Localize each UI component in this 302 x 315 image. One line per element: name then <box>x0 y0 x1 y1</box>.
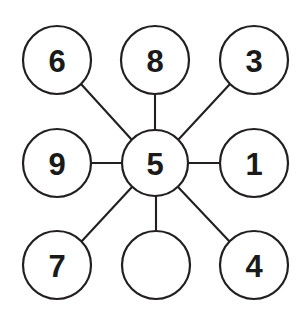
edge-center-top-right <box>178 84 230 140</box>
node-middle-right[interactable]: 1 <box>220 129 288 197</box>
node-top-left[interactable]: 6 <box>23 26 91 94</box>
puzzle-figure: 68395174 <box>0 0 302 315</box>
node-top-center-label: 8 <box>146 44 163 79</box>
node-center-label: 5 <box>146 147 163 182</box>
node-bottom-right[interactable]: 4 <box>220 231 288 299</box>
node-middle-left-label: 9 <box>48 147 65 182</box>
puzzle-diagram-canvas: 68395174 <box>0 0 302 315</box>
node-bottom-left-label: 7 <box>48 249 65 284</box>
node-bottom-left[interactable]: 7 <box>23 231 91 299</box>
edge-center-top-left <box>81 84 132 140</box>
node-bottom-center[interactable] <box>122 231 190 299</box>
edge-center-bottom-left <box>81 187 132 242</box>
node-top-right[interactable]: 3 <box>220 26 288 94</box>
circle-nodes-group: 68395174 <box>23 26 288 299</box>
node-top-right-label: 3 <box>245 44 262 79</box>
edge-center-bottom-right <box>178 187 230 242</box>
node-bottom-right-label: 4 <box>245 249 263 284</box>
node-middle-right-label: 1 <box>245 147 262 182</box>
node-center[interactable]: 5 <box>122 130 188 196</box>
node-top-left-label: 6 <box>48 44 65 79</box>
node-top-center[interactable]: 8 <box>121 26 189 94</box>
node-bottom-center-circle[interactable] <box>122 231 190 299</box>
node-middle-left[interactable]: 9 <box>23 129 91 197</box>
